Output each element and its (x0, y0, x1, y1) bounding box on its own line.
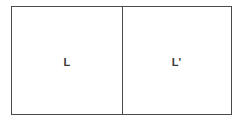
cell-pair-group: L L' (11, 6, 233, 115)
cell-left: L (11, 6, 123, 115)
cell-right-label: L' (172, 57, 182, 68)
diagram-canvas: L L' (0, 0, 242, 125)
cell-left-label: L (64, 57, 71, 68)
cell-right: L' (122, 6, 232, 115)
